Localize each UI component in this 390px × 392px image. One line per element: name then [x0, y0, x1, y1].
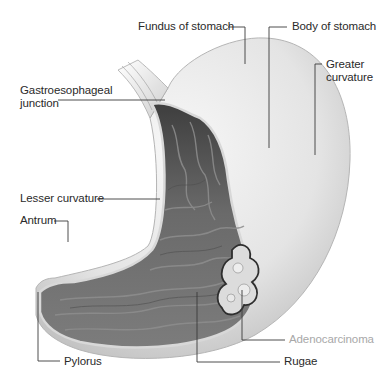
label-fundus-of-stomach: Fundus of stomach	[138, 20, 234, 33]
label-pylorus: Pylorus	[64, 355, 102, 368]
label-antrum: Antrum	[20, 214, 56, 227]
label-body-of-stomach: Body of stomach	[292, 20, 376, 33]
label-rugae: Rugae	[284, 355, 317, 368]
label-greater-curvature: Greater curvature	[326, 58, 373, 84]
label-lesser-curvature: Lesser curvature	[20, 192, 104, 205]
label-adenocarcinoma: Adenocarcinoma	[289, 333, 374, 346]
label-gastroesophageal-junction: Gastroesophageal junction	[20, 84, 112, 110]
